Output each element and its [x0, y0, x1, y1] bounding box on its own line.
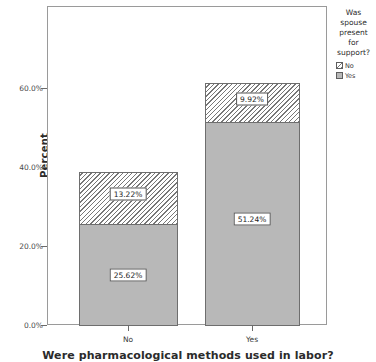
hatch-swatch-icon [336, 62, 343, 69]
legend-title: Was spouse present for support? [331, 8, 376, 58]
legend-title-line-1: Was [331, 8, 376, 18]
y-tick-label-20: 20.0% [3, 242, 43, 251]
data-label-yes-yes: 51.24% [234, 213, 271, 226]
y-tick-label-40: 40.0% [3, 163, 43, 172]
x-tick-mark-no [128, 325, 129, 331]
data-label-no-yes: 25.62% [110, 269, 147, 282]
y-tick-mark-0 [41, 325, 47, 326]
data-label-no-no: 13.22% [110, 188, 147, 201]
legend: Was spouse present for support? No Yes [331, 8, 376, 81]
y-tick-label-60: 60.0% [3, 84, 43, 93]
x-tick-mark-yes [252, 325, 253, 331]
legend-title-line-3: present [331, 28, 376, 38]
solid-swatch-icon [336, 72, 343, 79]
legend-title-line-2: spouse [331, 18, 376, 28]
legend-label-no: No [345, 62, 354, 70]
x-axis-title: Were pharmacological methods used in lab… [0, 349, 376, 362]
legend-label-yes: Yes [345, 72, 356, 80]
legend-title-line-5: support? [331, 48, 376, 58]
legend-items: No Yes [331, 61, 376, 80]
x-tick-label-no: No [93, 335, 163, 344]
legend-title-line-4: for [331, 38, 376, 48]
data-label-yes-no: 9.92% [236, 93, 268, 106]
x-tick-label-yes: Yes [217, 335, 287, 344]
legend-item-yes[interactable]: Yes [336, 71, 376, 80]
y-tick-label-0: 0.0% [3, 321, 43, 330]
legend-item-no[interactable]: No [336, 61, 376, 70]
